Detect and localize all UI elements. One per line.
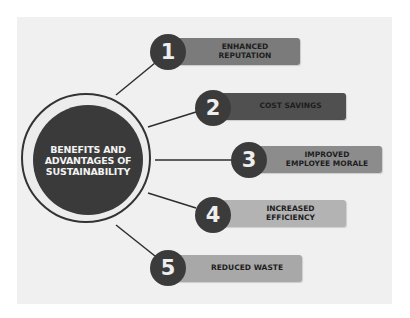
item-1-label-box: ENHANCED REPUTATION bbox=[174, 38, 300, 65]
item-4-badge: 4 bbox=[195, 197, 231, 233]
item-2-number: 2 bbox=[206, 96, 221, 120]
item-4-label: INCREASED EFFICIENCY bbox=[250, 205, 315, 222]
item-5-number: 5 bbox=[161, 256, 176, 280]
item-2-badge: 2 bbox=[195, 90, 231, 126]
hub-circle: BENEFITS AND ADVANTAGES OF SUSTAINABILIT… bbox=[33, 105, 143, 215]
item-5-label: REDUCED WASTE bbox=[195, 264, 283, 273]
item-3-badge: 3 bbox=[231, 142, 267, 178]
item-2-label: COST SAVINGS bbox=[243, 102, 321, 111]
item-5-label-box: REDUCED WASTE bbox=[176, 255, 302, 282]
item-1-label: ENHANCED REPUTATION bbox=[203, 43, 272, 60]
item-1-badge: 1 bbox=[150, 34, 186, 70]
item-4-label-box: INCREASED EFFICIENCY bbox=[219, 200, 346, 227]
hub-title: BENEFITS AND ADVANTAGES OF SUSTAINABILIT… bbox=[38, 144, 138, 177]
item-3-label: IMPROVED EMPLOYEE MORALE bbox=[270, 151, 368, 168]
item-4-number: 4 bbox=[206, 203, 221, 227]
item-2-label-box: COST SAVINGS bbox=[219, 93, 346, 120]
item-5-badge: 5 bbox=[150, 250, 186, 286]
item-3-number: 3 bbox=[242, 148, 257, 172]
item-1-number: 1 bbox=[161, 40, 176, 64]
item-3-label-box: IMPROVED EMPLOYEE MORALE bbox=[256, 146, 382, 173]
